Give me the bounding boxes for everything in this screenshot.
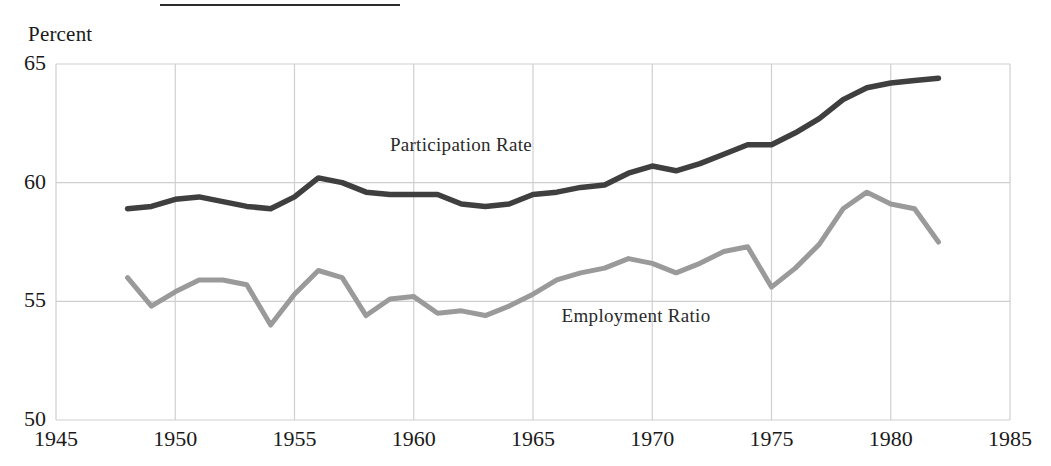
x-axis-tick-label: 1950 [130,428,220,450]
y-axis-tick-label: 60 [0,171,46,193]
x-axis-tick-label: 1980 [846,428,936,450]
x-axis-tick-label: 1965 [488,428,578,450]
figure-container: Percent 50556065194519501955196019651970… [0,0,1051,466]
line-chart-plot [0,0,1051,466]
x-axis-tick-label: 1975 [727,428,817,450]
y-axis-tick-label: 55 [0,289,46,311]
series-label-1: Employment Ratio [562,305,711,327]
x-axis-tick-label: 1985 [965,428,1051,450]
y-axis-tick-label: 65 [0,52,46,74]
series-label-0: Participation Rate [390,134,532,156]
x-axis-tick-label: 1960 [369,428,459,450]
x-axis-tick-label: 1970 [607,428,697,450]
x-axis-tick-label: 1955 [250,428,340,450]
x-axis-tick-label: 1945 [11,428,101,450]
